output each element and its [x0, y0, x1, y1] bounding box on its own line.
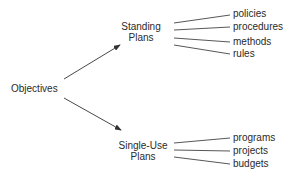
leaf-programs: programs	[233, 132, 275, 143]
leaf-projects: projects	[233, 145, 268, 156]
branch-standing-plans: Standing Plans	[114, 21, 168, 43]
arrow-to-single-use-plans	[64, 98, 121, 130]
branch-label-line2: Plans	[114, 32, 168, 43]
arrow-to-standing-plans	[64, 45, 120, 79]
leaf-methods: methods	[233, 36, 271, 47]
leaf-policies: policies	[233, 8, 266, 19]
branch-label-line2: Plans	[114, 151, 172, 162]
branch-single-use-plans: Single-Use Plans	[114, 140, 172, 162]
leaf-procedures: procedures	[233, 21, 283, 32]
branch-label-line1: Standing	[114, 21, 168, 32]
root-node-objectives: Objectives	[11, 83, 58, 94]
leaf-rules: rules	[233, 48, 255, 59]
leaf-budgets: budgets	[233, 158, 269, 169]
plans-hierarchy-diagram: Objectives Standing Plans Single-Use Pla…	[0, 0, 295, 177]
branch-label-line1: Single-Use	[114, 140, 172, 151]
